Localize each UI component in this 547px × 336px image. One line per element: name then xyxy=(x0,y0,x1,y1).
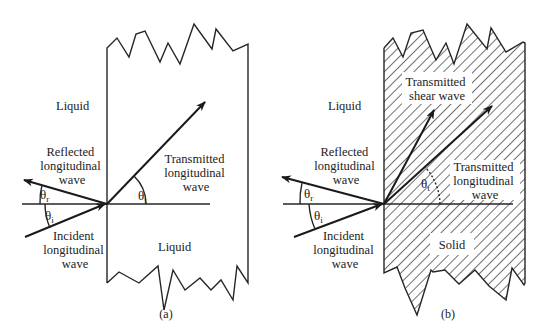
angle-theta-r: θr xyxy=(304,186,313,203)
panel-a: Liquid Reflected longitudinal wave θr θi… xyxy=(22,24,248,321)
label-transmitted-longitudinal: Transmitted longitudinal wave xyxy=(164,152,228,194)
label-liquid-left: Liquid xyxy=(56,99,90,113)
label-transmitted-shear: Transmitted shear wave xyxy=(405,75,468,103)
label-liquid-left: Liquid xyxy=(328,99,362,113)
angle-theta-i: θi xyxy=(45,208,54,225)
wave-refraction-diagram: Liquid Reflected longitudinal wave θr θi… xyxy=(0,0,547,336)
caption-b: (b) xyxy=(441,307,455,321)
label-solid: Solid xyxy=(439,238,466,252)
angle-theta-i: θi xyxy=(314,208,323,225)
label-liquid-right: Liquid xyxy=(158,240,192,254)
label-incident: Incident longitudinal wave xyxy=(43,229,107,271)
label-incident: Incident longitudinal wave xyxy=(313,229,377,271)
angle-theta-t: θt xyxy=(138,188,147,205)
angle-theta-r: θr xyxy=(40,187,49,204)
panel-b: Liquid Reflected longitudinal wave θr θi… xyxy=(282,20,530,321)
caption-a: (a) xyxy=(159,307,172,321)
angle-arc-reflected xyxy=(300,183,302,204)
label-reflected: Reflected longitudinal wave xyxy=(40,145,104,187)
label-reflected: Reflected longitudinal wave xyxy=(314,145,378,187)
